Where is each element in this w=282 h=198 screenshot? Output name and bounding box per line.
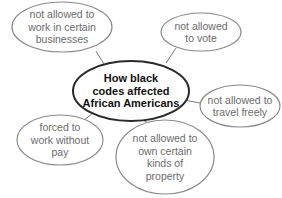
node-property: not allowed to own certain kinds of prop… bbox=[116, 120, 214, 194]
center-line-2: codes affected bbox=[83, 85, 180, 98]
node-text-line: own certain bbox=[133, 145, 198, 158]
node-text-line: to vote bbox=[174, 32, 227, 45]
center-line-1: How black bbox=[83, 72, 180, 85]
node-text-line: kinds of bbox=[133, 157, 198, 170]
node-text-line: not allowed to bbox=[208, 94, 273, 107]
node-text-line: property bbox=[133, 170, 198, 183]
node-text-line: pay bbox=[31, 146, 89, 159]
node-text-line: not allowed to bbox=[133, 132, 198, 145]
center-line-3: African Americans bbox=[83, 97, 180, 110]
node-text-line: travel freely bbox=[208, 106, 273, 119]
concept-map: How black codes affected African America… bbox=[0, 0, 282, 198]
node-vote: not allowed to vote bbox=[161, 13, 241, 51]
node-text-line: work in certain bbox=[28, 21, 96, 34]
center-node: How black codes affected African America… bbox=[73, 61, 189, 121]
node-work-businesses: not allowed to work in certain businesse… bbox=[12, 2, 112, 52]
node-text-line: businesses bbox=[28, 33, 96, 46]
node-forced-work: forced to work without pay bbox=[17, 115, 103, 165]
node-text-line: forced to bbox=[31, 121, 89, 134]
node-text-line: not allowed bbox=[174, 20, 227, 33]
node-text-line: work without bbox=[31, 134, 89, 147]
node-text-line: not allowed to bbox=[28, 8, 96, 21]
